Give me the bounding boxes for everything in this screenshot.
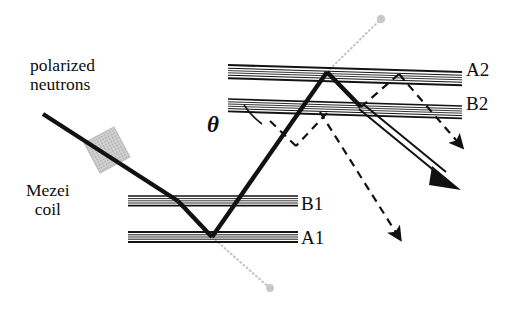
label-polarized-neutrons-line2: neutrons	[30, 74, 90, 94]
label-mezei-coil: Mezeicoil	[26, 181, 70, 219]
faint-guide-bottom-left	[212, 237, 272, 290]
mirror-a2-band	[228, 65, 462, 72]
beam-outgoing-rule-a	[359, 109, 442, 177]
ray-diagram	[0, 0, 530, 310]
mirror-b1	[128, 196, 298, 206]
label-mezei-coil-line1: Mezei	[26, 180, 70, 200]
dashed-trajectories	[269, 74, 462, 239]
faint-blob-bottom	[266, 284, 274, 292]
mirror-a2	[228, 65, 462, 85]
label-mirror-a1: A1	[301, 228, 324, 249]
label-mezei-coil-line2: coil	[35, 199, 61, 219]
mirror-b2	[228, 99, 462, 118]
label-mirror-b2: B2	[466, 94, 488, 115]
dashed-branch-down-right-long	[320, 112, 400, 239]
dashed-branch-down-left	[296, 113, 327, 146]
mirror-a2-band	[228, 78, 462, 85]
faint-guide-top-right	[327, 17, 383, 72]
label-mirror-b1: B1	[301, 194, 323, 215]
beam-outgoing-arrowhead	[429, 166, 461, 190]
faint-guides	[212, 17, 383, 290]
label-mirror-a2: A2	[466, 60, 489, 81]
theta-angle-arc	[244, 105, 262, 124]
figure-canvas: polarizedneutrons Mezeicoil θ B1 A1 A2 B…	[0, 0, 530, 310]
faint-blob-top	[377, 15, 385, 23]
faint-guide-blobs	[266, 15, 385, 292]
label-polarized-neutrons-line1: polarized	[30, 55, 95, 75]
label-theta-angle: θ	[207, 113, 219, 138]
label-polarized-neutrons: polarizedneutrons	[30, 56, 95, 94]
